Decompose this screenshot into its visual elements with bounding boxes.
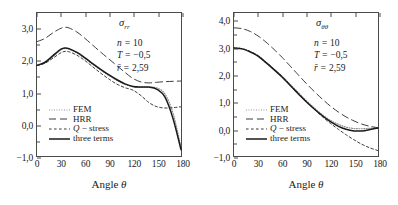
y-tick-mark-minor <box>234 89 237 90</box>
x-tick-label: 0 <box>232 159 237 169</box>
legend-swatch-dashed <box>49 116 70 122</box>
y-tick-mark-minor <box>37 141 40 142</box>
x-tick-mark <box>85 13 86 17</box>
y-tick-label: 2,0 <box>219 71 230 81</box>
panel-sigma-rr: −1,00,01,02,03,0 0306090120150180 σrr n … <box>0 0 199 205</box>
y-tick-label: 4,0 <box>219 16 230 26</box>
y-tick-mark <box>234 21 238 22</box>
legend-sigma-rr: FEMHRRQ − stressthree terms <box>49 105 113 143</box>
y-tick-mark-minor <box>37 77 40 78</box>
legend-swatch-dotted <box>49 107 70 113</box>
y-tick-label: 0,0 <box>219 126 230 136</box>
legend-item: three terms <box>246 134 310 144</box>
legend-label: three terms <box>73 134 113 144</box>
y-tick-mark-minor <box>37 45 40 46</box>
annotation-block-sigma-thetatheta: σθθ n = 10 T = −0,5 r̄ = 2,59 <box>314 17 348 74</box>
y-tick-mark <box>37 29 41 30</box>
y-tick-label: 1,0 <box>219 98 230 108</box>
y-tick-label: −1,0 <box>17 153 33 163</box>
x-tick-mark <box>61 13 62 17</box>
plot-area-sigma-rr: −1,00,01,02,03,0 0306090120150180 σrr n … <box>36 12 182 157</box>
x-tick-mark <box>37 13 38 17</box>
annotation-r: r̄ = 2,59 <box>117 62 151 75</box>
annotation-T: T = −0,5 <box>314 49 348 62</box>
x-tick-label: 150 <box>349 159 363 169</box>
y-tick-mark <box>37 125 41 126</box>
x-tick-mark <box>258 13 259 17</box>
legend-swatch-dotted <box>246 107 267 113</box>
y-tick-mark <box>234 103 238 104</box>
x-axis-label-sigma-rr: Angle θ <box>36 178 182 190</box>
panel-sigma-thetatheta: −1,00,01,02,03,04,0 0306090120150180 σθθ… <box>199 0 398 205</box>
legend-label: three terms <box>270 134 310 144</box>
y-tick-mark <box>234 75 238 76</box>
legend-item: three terms <box>49 134 113 144</box>
legend-swatch-shortdash <box>49 126 70 132</box>
x-tick-label: 0 <box>35 159 40 169</box>
x-tick-label: 120 <box>128 159 142 169</box>
x-tick-mark <box>183 13 184 17</box>
x-tick-label: 180 <box>373 159 387 169</box>
plot-area-sigma-thetatheta: −1,00,01,02,03,04,0 0306090120150180 σθθ… <box>233 12 379 157</box>
x-tick-mark <box>355 13 356 17</box>
x-tick-mark <box>234 13 235 17</box>
annotation-block-sigma-rr: σrr n = 10 T = −0,5 r̄ = 2,59 <box>117 17 151 74</box>
x-tick-label: 90 <box>302 159 311 169</box>
legend-sigma-thetatheta: FEMHRRQ − stressthree terms <box>246 105 310 143</box>
annotation-n: n = 10 <box>117 37 151 50</box>
annotation-r: r̄ = 2,59 <box>314 62 348 75</box>
y-tick-label: 2,0 <box>22 56 33 66</box>
x-tick-mark <box>307 13 308 17</box>
x-tick-label: 30 <box>57 159 66 169</box>
legend-swatch-solid <box>49 136 70 142</box>
stress-distribution-figure: −1,00,01,02,03,0 0306090120150180 σrr n … <box>0 0 398 205</box>
legend-swatch-dashed <box>246 116 267 122</box>
legend-swatch-shortdash <box>246 126 267 132</box>
x-tick-label: 180 <box>176 159 190 169</box>
y-tick-mark-minor <box>234 116 237 117</box>
x-tick-label: 120 <box>325 159 339 169</box>
y-tick-mark-minor <box>234 34 237 35</box>
x-tick-label: 90 <box>105 159 114 169</box>
x-tick-label: 60 <box>278 159 287 169</box>
y-tick-label: 1,0 <box>22 89 33 99</box>
x-tick-label: 30 <box>254 159 263 169</box>
x-tick-mark <box>158 13 159 17</box>
panel-title-sigma-rr: σrr <box>119 17 151 34</box>
y-tick-label: 0,0 <box>22 121 33 131</box>
y-tick-mark-minor <box>37 109 40 110</box>
y-tick-mark-minor <box>234 144 237 145</box>
annotation-T: T = −0,5 <box>117 49 151 62</box>
legend-swatch-solid <box>246 136 267 142</box>
annotation-n: n = 10 <box>314 37 348 50</box>
y-tick-label: −1,0 <box>214 153 230 163</box>
y-tick-label: 3,0 <box>22 24 33 34</box>
x-tick-label: 60 <box>81 159 90 169</box>
y-tick-mark-minor <box>234 62 237 63</box>
curve-q-stress <box>37 51 181 108</box>
y-tick-label: 3,0 <box>219 44 230 54</box>
x-axis-label-sigma-thetatheta: Angle θ <box>233 178 379 190</box>
x-tick-mark <box>110 13 111 17</box>
x-tick-mark <box>282 13 283 17</box>
panel-title-sigma-thetatheta: σθθ <box>316 17 348 34</box>
x-tick-label: 150 <box>152 159 166 169</box>
y-tick-mark <box>37 93 41 94</box>
y-tick-mark <box>234 48 238 49</box>
y-tick-mark <box>37 61 41 62</box>
x-tick-mark <box>380 13 381 17</box>
y-tick-mark <box>234 130 238 131</box>
